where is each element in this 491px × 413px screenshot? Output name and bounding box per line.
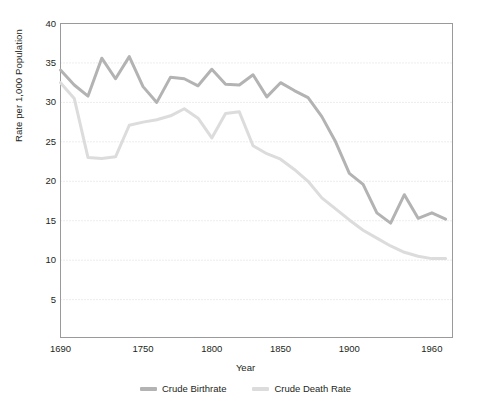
x-axis-tick: 1850 (270, 343, 291, 354)
grid-lines (61, 24, 453, 300)
x-axis-label: Year (0, 362, 491, 373)
series-line-crude-death-rate (61, 83, 446, 259)
data-series (61, 57, 446, 259)
x-axis-tick: 1960 (421, 343, 442, 354)
legend-item[interactable]: Crude Death Rate (252, 383, 351, 394)
chart-legend: Crude BirthrateCrude Death Rate (0, 383, 491, 394)
x-axis-tick: 1900 (339, 343, 360, 354)
legend-swatch-icon (140, 387, 157, 391)
plot-canvas (0, 0, 491, 413)
series-line-crude-birthrate (61, 57, 446, 223)
chart-figure: Rate per 1,000 Population 51015202530354… (0, 0, 491, 413)
x-axis-tick: 1750 (132, 343, 153, 354)
legend-swatch-icon (252, 387, 269, 391)
x-axis-tick: 1800 (201, 343, 222, 354)
x-axis-tick: 1690 (50, 343, 71, 354)
legend-label: Crude Birthrate (162, 383, 226, 394)
legend-item[interactable]: Crude Birthrate (140, 383, 226, 394)
legend-label: Crude Death Rate (274, 383, 351, 394)
